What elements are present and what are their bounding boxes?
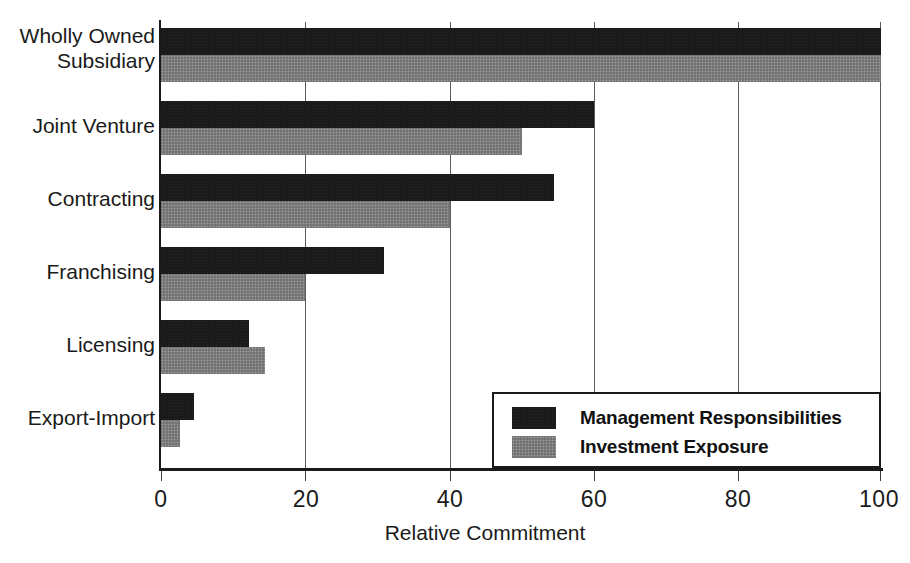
bar-investment-contracting [161,201,450,228]
x-tick-label-60: 60 [581,486,608,513]
x-tick-label-80: 80 [725,486,752,513]
x-axis-line [159,468,883,471]
legend-swatch-investment-exposure [512,436,556,458]
category-label-licensing: Licensing [66,332,155,357]
legend-label-investment-exposure: Investment Exposure [580,436,768,458]
bar-investment-export-import [161,420,180,447]
bar-management-licensing [161,320,249,347]
legend-item-investment-exposure: Investment Exposure [512,432,879,461]
category-label-contracting: Contracting [48,186,155,211]
category-label-export-import: Export-Import [28,405,155,430]
legend-label-management-responsibilities: Management Responsibilities [580,407,842,429]
legend: Management Responsibilities Investment E… [492,392,881,468]
x-tick-60 [594,471,595,481]
x-tick-40 [450,471,451,481]
bar-investment-franchising [161,274,305,301]
category-axis-labels: Wholly Owned Subsidiary Joint Venture Co… [0,0,155,470]
x-tick-20 [305,471,306,481]
x-tick-label-100: 100 [859,486,899,513]
legend-swatch-management-responsibilities [512,407,556,429]
x-axis-title-text: Relative Commitment [385,521,586,544]
y-axis-line [159,20,161,470]
legend-item-management-responsibilities: Management Responsibilities [512,403,879,432]
category-label-joint-venture: Joint Venture [32,113,155,138]
gridline-40 [450,22,451,468]
x-tick-0 [161,471,162,481]
bar-chart: 0 20 40 60 80 100 Wholly Owned Subsidiar… [0,0,910,563]
x-tick-100 [880,471,881,481]
x-tick-label-0: 0 [154,486,167,513]
bar-management-wholly-owned-subsidiary [161,28,881,55]
bar-management-franchising [161,247,384,274]
category-label-franchising: Franchising [46,259,155,284]
bar-management-export-import [161,393,194,420]
bar-investment-wholly-owned-subsidiary [161,55,881,82]
bar-investment-licensing [161,347,265,374]
bar-management-joint-venture [161,101,594,128]
gridline-20 [305,22,306,468]
category-label-wholly-owned-subsidiary: Wholly Owned Subsidiary [20,23,155,73]
bar-investment-joint-venture [161,128,522,155]
bar-management-contracting [161,174,554,201]
x-axis-title: Relative Commitment [0,521,910,545]
x-tick-80 [738,471,739,481]
x-tick-label-40: 40 [437,486,464,513]
x-tick-label-20: 20 [293,486,320,513]
